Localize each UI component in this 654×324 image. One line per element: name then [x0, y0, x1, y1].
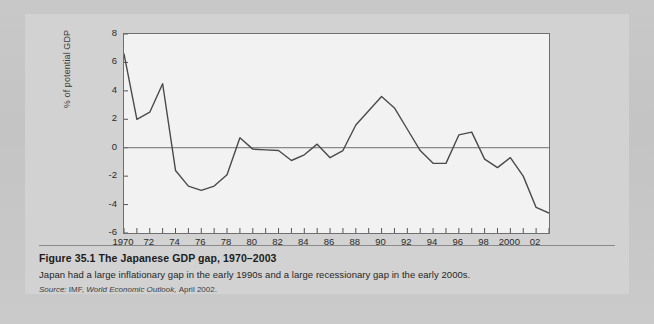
x-axis-minor-ticks: [124, 228, 549, 233]
chart-plot-panel: [123, 33, 550, 234]
gdp-gap-line: [124, 54, 549, 213]
source-organization: IMF,: [69, 285, 84, 294]
y-tick-label: 8: [97, 28, 117, 38]
caption-divider: [39, 245, 615, 246]
page-background: % of potential GDP 86420-2-4-6 197072747…: [0, 0, 654, 324]
y-tick-label: -2: [97, 170, 117, 180]
figure-container: % of potential GDP 86420-2-4-6 197072747…: [25, 14, 629, 294]
source-date: April 2002.: [179, 285, 217, 294]
y-tick-label: 0: [97, 142, 117, 152]
chart-svg: [124, 34, 549, 233]
y-tick-label: 2: [97, 113, 117, 123]
source-label: Source:: [39, 285, 67, 294]
y-tick-label: 6: [97, 56, 117, 66]
y-tick-label: -4: [97, 199, 117, 209]
figure-caption-description: Japan had a large inflationary gap in th…: [39, 269, 470, 280]
y-tick-label: 4: [97, 85, 117, 95]
figure-caption-title: Figure 35.1 The Japanese GDP gap, 1970–2…: [39, 252, 277, 264]
y-axis-title: % of potential GDP: [62, 0, 72, 139]
source-publication: World Economic Outlook,: [86, 285, 176, 294]
figure-source-line: Source: IMF, World Economic Outlook, Apr…: [39, 285, 217, 294]
